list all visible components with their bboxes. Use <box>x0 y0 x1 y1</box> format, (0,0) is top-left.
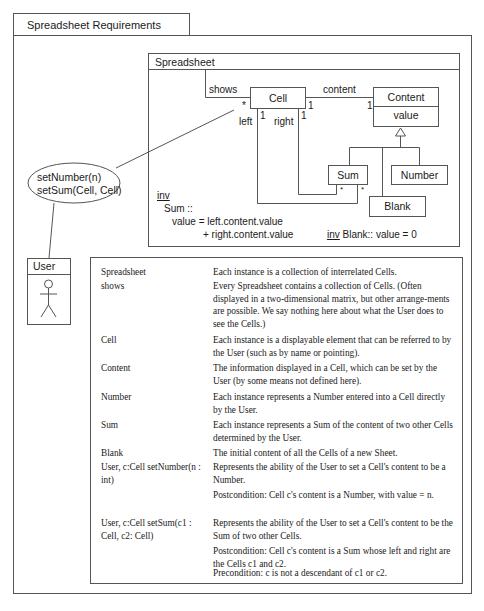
class-content-name: Content <box>374 88 438 107</box>
class-sum: Sum <box>328 165 368 185</box>
assoc-content-mult-content: 1 <box>367 100 373 111</box>
row-term: Spreadsheet <box>101 266 213 279</box>
assoc-shows-label: shows <box>209 84 237 95</box>
row-desc: Each instance is a collection of interre… <box>213 266 453 279</box>
assoc-content-mult-cell: 1 <box>308 100 314 111</box>
row-term: Cell <box>101 334 213 347</box>
assoc-left-label: left <box>239 116 252 127</box>
row-desc: Every Spreadsheet contains a collection … <box>213 280 453 330</box>
inv-blank: inv Blank:: value = 0 <box>327 229 417 240</box>
row-term: Content <box>101 362 213 375</box>
row-desc: Represents the ability of the User to se… <box>213 461 453 486</box>
assoc-right-label: right <box>274 116 293 127</box>
row-term: shows <box>101 280 213 293</box>
assoc-left-multiplicity: 1 <box>260 110 266 121</box>
class-blank: Blank <box>369 196 426 217</box>
class-content-attribute: value <box>374 107 438 121</box>
class-cell: Cell <box>250 87 306 109</box>
inv-blank-keyword: inv <box>327 229 340 240</box>
inv-sum-line1: Sum :: <box>164 203 193 214</box>
row-desc: Postcondition: Cell c's content is a Num… <box>213 489 453 502</box>
row-term: User, c:Cell setNumber(n : int) <box>101 461 201 486</box>
row-desc: The information displayed in a Cell, whi… <box>213 362 453 387</box>
assoc-content-label: content <box>323 84 356 95</box>
class-content: Content value <box>373 87 439 127</box>
row-desc: Each instance represents a Sum of the co… <box>213 419 453 444</box>
row-term: Blank <box>101 447 213 460</box>
glossary-table: Spreadsheet Each instance is a collectio… <box>90 257 463 584</box>
row-desc: Precondition: c is not a descendant of c… <box>213 567 453 580</box>
row-desc: Each instance represents a Number entere… <box>213 391 453 416</box>
actor-user-name: User <box>27 258 71 275</box>
assoc-sum-right-multiplicity: * <box>361 185 364 194</box>
row-desc: Each instance is a displayable element t… <box>213 334 453 359</box>
assoc-shows-multiplicity: * <box>242 100 246 111</box>
inv-keyword: inv <box>157 190 170 201</box>
row-term: Number <box>101 391 213 404</box>
row-desc: The initial content of all the Cells of … <box>213 447 453 460</box>
use-case-set-sum: setSum(Cell, Cell) <box>37 184 122 196</box>
inv-sum-line2: value = left.content.value <box>172 216 283 227</box>
inv-sum-line3: + right.content.value <box>203 229 293 240</box>
inv-blank-text: Blank:: value = 0 <box>340 229 417 240</box>
use-case-set-number: setNumber(n) <box>37 171 101 183</box>
row-term: User, c:Cell setSum(c1 : Cell, c2: Cell) <box>101 517 201 542</box>
assoc-right-multiplicity: 1 <box>301 110 307 121</box>
assoc-sum-left-multiplicity: * <box>340 185 343 194</box>
class-number: Number <box>391 165 448 185</box>
row-desc: Represents the ability of the User to se… <box>213 517 453 542</box>
row-term: Sum <box>101 419 213 432</box>
